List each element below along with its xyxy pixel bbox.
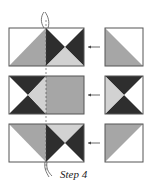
bottom-row-block: [9, 124, 84, 162]
top-row-block: [9, 28, 84, 66]
arrow-icon: [88, 142, 100, 145]
bottom-row-unit: [105, 124, 143, 162]
step-caption: Step 4: [60, 168, 87, 180]
middle-row-block: [9, 76, 84, 114]
quilt-step-diagram: [0, 0, 152, 190]
thread-icon: [41, 12, 48, 28]
middle-row-unit: [105, 76, 143, 114]
top-row-unit: [105, 28, 143, 66]
arrow-icon: [88, 46, 100, 49]
arrow-icon: [88, 94, 100, 97]
